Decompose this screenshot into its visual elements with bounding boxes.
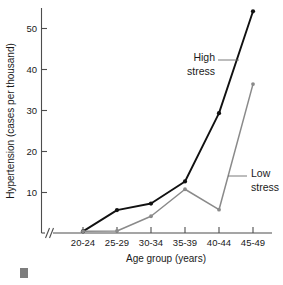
chart-canvas: 50 40 30 20 10 Hypertension (cases per t… (0, 0, 283, 285)
y-tick-label-30: 30 (26, 105, 37, 116)
high-stress-label-line2: stress (187, 65, 215, 77)
data-point (183, 187, 187, 191)
series-line-low-stress (83, 84, 253, 231)
axis-break-mark-1 (46, 228, 50, 238)
y-tick-label-10: 10 (26, 187, 37, 198)
data-point (149, 201, 153, 205)
data-point (183, 179, 187, 183)
x-axis-title: Age group (years) (126, 253, 206, 264)
y-tick-label-50: 50 (26, 23, 37, 34)
x-tick-label-25-29: 25-29 (105, 237, 129, 248)
x-tick-label-45-49: 45-49 (241, 237, 265, 248)
y-axis-title: Hypertension (cases per thousand) (5, 43, 16, 199)
x-tick-label-30-34: 30-34 (139, 237, 163, 248)
data-point (217, 208, 221, 212)
y-tick-label-40: 40 (26, 64, 37, 75)
series-line-high-stress (83, 11, 253, 231)
hypertension-line-chart: 50 40 30 20 10 Hypertension (cases per t… (0, 0, 283, 285)
series-layer (81, 9, 255, 233)
x-tick-label-40-44: 40-44 (207, 237, 231, 248)
low-stress-label-line2: stress (251, 181, 279, 193)
data-point (251, 82, 255, 86)
y-tick-label-20: 20 (26, 146, 37, 157)
high-stress-label-line1: High (193, 51, 215, 63)
data-point (149, 214, 153, 218)
x-tick-label-20-24: 20-24 (71, 237, 95, 248)
data-point (217, 111, 221, 115)
x-tick-label-35-39: 35-39 (173, 237, 197, 248)
data-point (251, 9, 255, 13)
data-point (115, 208, 119, 212)
data-point (81, 229, 85, 233)
data-point (115, 229, 119, 233)
low-stress-label-line1: Low (251, 167, 271, 179)
axis-break-mark-2 (50, 228, 54, 238)
figure-marker-swatch (20, 268, 28, 278)
